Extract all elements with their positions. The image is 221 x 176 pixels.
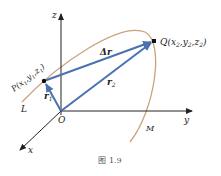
figure: z y x O L M r1 r2 Δr Q(x2,y2,z2) P(x1,y1… <box>0 0 221 176</box>
delta-r-label: Δr <box>99 47 113 57</box>
point-p-label: P(x1,y1,z1) <box>9 62 47 95</box>
y-axis-label: y <box>183 115 190 125</box>
point-q-label: Q(x2,y2,z2) <box>160 37 207 48</box>
curve-start-label: L <box>20 104 27 114</box>
x-axis <box>20 111 61 150</box>
point-p <box>42 79 46 83</box>
point-q <box>152 39 156 43</box>
x-axis-label: x <box>28 145 33 155</box>
curve-end-label: M <box>145 124 155 133</box>
r2-label: r2 <box>107 77 116 88</box>
figure-caption: 图 1.9 <box>98 156 121 165</box>
z-axis-label: z <box>51 10 57 20</box>
delta-r-vector <box>44 42 151 81</box>
origin-label: O <box>58 115 66 125</box>
